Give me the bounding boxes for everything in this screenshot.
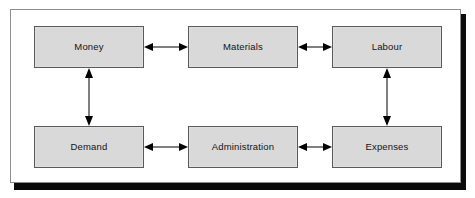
node-label-expenses: Expenses	[366, 142, 409, 152]
node-label-materials: Materials	[223, 42, 263, 52]
node-label-administration: Administration	[212, 142, 274, 152]
arrow-money-materials	[144, 41, 188, 53]
diagram-canvas: Money Materials Labour Demand Administra…	[0, 0, 475, 198]
arrow-labour-expenses	[381, 68, 393, 126]
node-labour[interactable]: Labour	[332, 26, 442, 68]
arrow-materials-labour	[298, 41, 332, 53]
node-money[interactable]: Money	[34, 26, 144, 68]
diagram-frame: Money Materials Labour Demand Administra…	[10, 9, 461, 183]
node-demand[interactable]: Demand	[34, 126, 144, 168]
node-label-money: Money	[74, 42, 103, 52]
node-materials[interactable]: Materials	[188, 26, 298, 68]
arrow-administration-expenses	[298, 141, 332, 153]
node-label-labour: Labour	[372, 42, 402, 52]
node-label-demand: Demand	[71, 142, 108, 152]
node-expenses[interactable]: Expenses	[332, 126, 442, 168]
node-administration[interactable]: Administration	[188, 126, 298, 168]
arrow-money-demand	[83, 68, 95, 126]
arrow-demand-administration	[144, 141, 188, 153]
